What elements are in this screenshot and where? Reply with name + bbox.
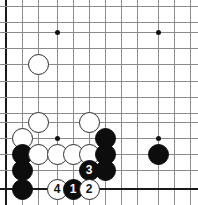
white-stone-center-mid[interactable] xyxy=(79,112,100,133)
move-number-label: 1 xyxy=(70,183,77,195)
move-number-label: 2 xyxy=(86,183,93,195)
move-3-black-stone[interactable]: 3 xyxy=(79,160,100,181)
white-stone-upper-left-area[interactable] xyxy=(28,54,49,75)
black-stone-isolated-right[interactable] xyxy=(148,144,169,165)
move-number-label: 4 xyxy=(54,183,61,195)
white-stone-row-1[interactable] xyxy=(28,144,49,165)
black-stone-left-col-3[interactable] xyxy=(12,179,33,200)
white-stone-left-mid[interactable] xyxy=(28,112,49,133)
black-stone-left-col-2[interactable] xyxy=(12,160,33,181)
board-stone-layer: 3412 xyxy=(0,0,198,205)
move-number-label: 3 xyxy=(86,164,93,176)
go-board-diagram: 3412 xyxy=(0,0,198,205)
move-2-white-stone[interactable]: 2 xyxy=(79,179,100,200)
